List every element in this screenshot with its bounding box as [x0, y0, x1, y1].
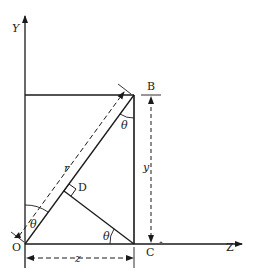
line-cd	[64, 191, 134, 244]
right-angle-marker	[64, 184, 76, 196]
r-dashed-line	[19, 92, 124, 236]
z-dim-arrow-left	[26, 255, 34, 261]
theta-label-o: θ	[30, 218, 37, 231]
theta-label-c: θ	[103, 230, 110, 243]
z-axis-label: Z	[226, 241, 234, 254]
z-dim-arrow-right	[126, 255, 134, 261]
y-dim-label: y	[142, 161, 150, 174]
angle-arc-b	[120, 114, 134, 118]
diagonal-ob	[25, 95, 134, 244]
r-end-tick-top	[118, 84, 131, 94]
y-dim-arrow-bottom	[148, 235, 154, 243]
theta-label-b: θ	[121, 119, 128, 132]
point-d-label: D	[78, 181, 87, 194]
r-dim-label: r	[64, 162, 70, 175]
geometry-diagram: Y Z O B C D z y r θ θ θ	[0, 0, 253, 276]
point-o-label: O	[12, 241, 21, 254]
angle-arc-c	[110, 229, 114, 244]
point-c-label: C	[146, 246, 154, 259]
point-b-label: B	[147, 80, 155, 93]
y-dim-arrow-top	[148, 96, 154, 104]
y-axis-label: Y	[12, 22, 21, 35]
angle-arc-o	[25, 205, 48, 212]
dot-marker	[160, 242, 163, 245]
z-dim-label: z	[74, 252, 81, 265]
